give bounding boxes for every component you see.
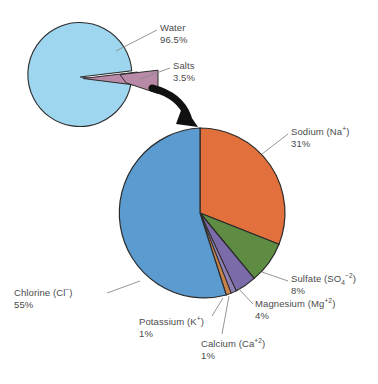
seawater-pie (28, 22, 158, 126)
callout-sulfate-close: ) (353, 273, 356, 284)
callout-water-percent: 96.5% (160, 34, 187, 46)
callout-chlorine: Chlorine (Cl−) 55% (14, 287, 73, 310)
leader-line-sulfate (262, 272, 288, 281)
callout-magnesium-charge: +2 (324, 297, 332, 304)
callout-magnesium: Magnesium (Mg+2) 4% (255, 298, 335, 321)
callout-sodium: Sodium (Na+) 31% (291, 126, 349, 149)
callout-calcium-charge: +2 (254, 337, 262, 344)
callout-potassium-element: Potassium (K (139, 316, 197, 327)
callout-sodium-close: ) (346, 126, 349, 137)
callout-magnesium-close: ) (332, 298, 335, 309)
callout-potassium-percent: 1% (139, 328, 204, 340)
callout-sulfate-sub: 4 (341, 279, 345, 286)
callout-calcium: Calcium (Ca+2) 1% (201, 338, 265, 361)
callout-potassium-close: ) (201, 316, 204, 327)
callout-water: Water 96.5% (160, 22, 187, 45)
callout-salts-name: Salts (173, 60, 195, 71)
callout-sodium-percent: 31% (291, 138, 349, 150)
leader-line-calcium (222, 296, 229, 334)
callout-sulfate: Sulfate (SO4−2) 8% (291, 273, 356, 296)
callout-calcium-percent: 1% (201, 350, 265, 362)
callout-chlorine-element: Chlorine (Cl (14, 287, 65, 298)
callout-sulfate-percent: 8% (291, 285, 356, 297)
callout-potassium: Potassium (K+) 1% (139, 316, 204, 339)
callout-chlorine-percent: 55% (14, 299, 73, 311)
callout-salts: Salts 3.5% (173, 60, 195, 83)
leader-line-water (116, 30, 157, 51)
callout-sodium-element: Sodium (Na (291, 126, 342, 137)
callout-magnesium-percent: 4% (255, 310, 335, 322)
callout-calcium-close: ) (262, 338, 265, 349)
seawater-composition-figure: Water 96.5% Salts 3.5% Sodium (Na+) 31% … (0, 0, 378, 384)
callout-water-name: Water (160, 22, 185, 33)
leader-line-sodium (262, 134, 288, 154)
leader-line-magnesium (238, 288, 253, 304)
callout-sulfate-element: Sulfate (SO (291, 273, 341, 284)
leader-line-potassium (212, 298, 223, 316)
salt-composition-pie (119, 128, 285, 298)
arrow-salts-to-salt-pie (152, 88, 198, 127)
callout-calcium-element: Calcium (Ca (201, 338, 254, 349)
callout-chlorine-close: ) (69, 287, 72, 298)
callout-salts-percent: 3.5% (173, 72, 195, 84)
leader-line-chlorine (107, 281, 140, 293)
callout-magnesium-element: Magnesium (Mg (255, 298, 324, 309)
callout-sulfate-charge: −2 (345, 272, 353, 279)
